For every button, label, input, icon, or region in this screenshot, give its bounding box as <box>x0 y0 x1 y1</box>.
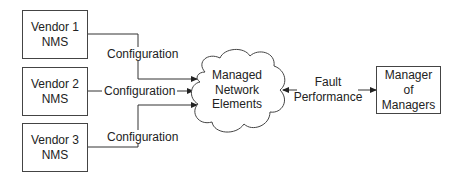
mom-line-2: of <box>403 83 413 98</box>
mom-line-1: Manager <box>385 68 432 83</box>
vendor-1-name: Vendor 1 <box>31 20 79 35</box>
configuration-label-1: Configuration <box>106 47 179 61</box>
cloud-line-1: Managed <box>192 68 282 83</box>
vendor-2-nms-box: Vendor 2 NMS <box>22 67 88 116</box>
vendor-2-type: NMS <box>42 92 69 107</box>
manager-of-managers-box: Manager of Managers <box>376 66 441 114</box>
vendor-3-nms-box: Vendor 3 NMS <box>22 123 88 172</box>
cloud-line-3: Elements <box>192 97 282 112</box>
configuration-label-3: Configuration <box>106 130 179 144</box>
vendor-1-nms-box: Vendor 1 NMS <box>22 10 88 59</box>
managed-network-elements-label: Managed Network Elements <box>192 68 282 112</box>
fault-performance-label: Fault Performance <box>283 75 373 104</box>
configuration-label-2: Configuration <box>102 84 177 98</box>
vendor-3-name: Vendor 3 <box>31 133 79 148</box>
vendor-1-type: NMS <box>42 35 69 50</box>
mom-line-3: Managers <box>382 98 435 113</box>
fault-label: Fault <box>283 75 373 90</box>
vendor-3-type: NMS <box>42 148 69 163</box>
performance-label: Performance <box>283 90 373 105</box>
vendor-2-name: Vendor 2 <box>31 77 79 92</box>
cloud-line-2: Network <box>192 83 282 98</box>
